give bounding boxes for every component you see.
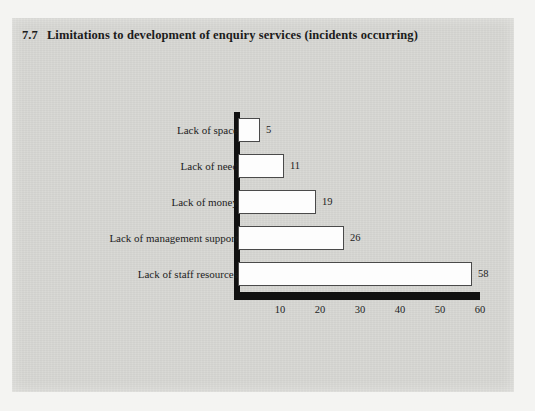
figure-title-text: Limitations to development of enquiry se… <box>47 28 418 42</box>
category-label-lack-of-management-support: Lack of management support <box>109 232 238 244</box>
bar-lack-of-need <box>238 154 284 178</box>
bar-value-lack-of-staff-resources: 58 <box>478 268 489 280</box>
bar-lack-of-money <box>238 190 316 214</box>
bar-value-lack-of-space: 5 <box>266 124 271 136</box>
xtick-50: 50 <box>435 304 446 315</box>
bar-chart: Lack of space Lack of need Lack of money… <box>12 18 514 392</box>
xtick-60: 60 <box>475 304 486 315</box>
bar-value-lack-of-need: 11 <box>290 160 300 172</box>
xtick-20: 20 <box>315 304 326 315</box>
bar-value-lack-of-management-support: 26 <box>350 232 361 244</box>
xtick-10: 10 <box>275 304 286 315</box>
figure-page: Lack of space Lack of need Lack of money… <box>0 0 535 411</box>
figure-title: 7.7Limitations to development of enquiry… <box>22 28 418 43</box>
xtick-30: 30 <box>355 304 366 315</box>
category-label-lack-of-space: Lack of space <box>177 124 238 136</box>
xtick-40: 40 <box>395 304 406 315</box>
value-axis-line <box>234 292 480 300</box>
bar-lack-of-management-support <box>238 226 344 250</box>
bar-lack-of-staff-resources <box>238 262 472 286</box>
bar-value-lack-of-money: 19 <box>322 196 333 208</box>
category-label-lack-of-need: Lack of need <box>181 160 238 172</box>
category-label-lack-of-staff-resources: Lack of staff resources <box>138 268 238 280</box>
figure-number: 7.7 <box>22 28 38 42</box>
bar-lack-of-space <box>238 118 260 142</box>
figure-panel: Lack of space Lack of need Lack of money… <box>12 18 514 392</box>
category-label-lack-of-money: Lack of money <box>171 196 238 208</box>
